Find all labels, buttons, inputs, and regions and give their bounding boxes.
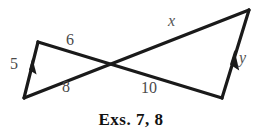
side-label-lower-right: 10 (141, 80, 157, 96)
side-label-right: y (239, 50, 246, 66)
figure-caption: Exs. 7, 8 (0, 110, 262, 130)
side-label-lower-left: 8 (62, 79, 70, 95)
side-label-upper-left: 6 (66, 32, 74, 48)
segment-bottom-left-to-top-right (24, 10, 249, 98)
geometry-figure: 5 6 8 10 x y Exs. 7, 8 (0, 0, 262, 136)
side-label-left: 5 (10, 56, 18, 72)
side-label-upper-right: x (168, 13, 175, 29)
